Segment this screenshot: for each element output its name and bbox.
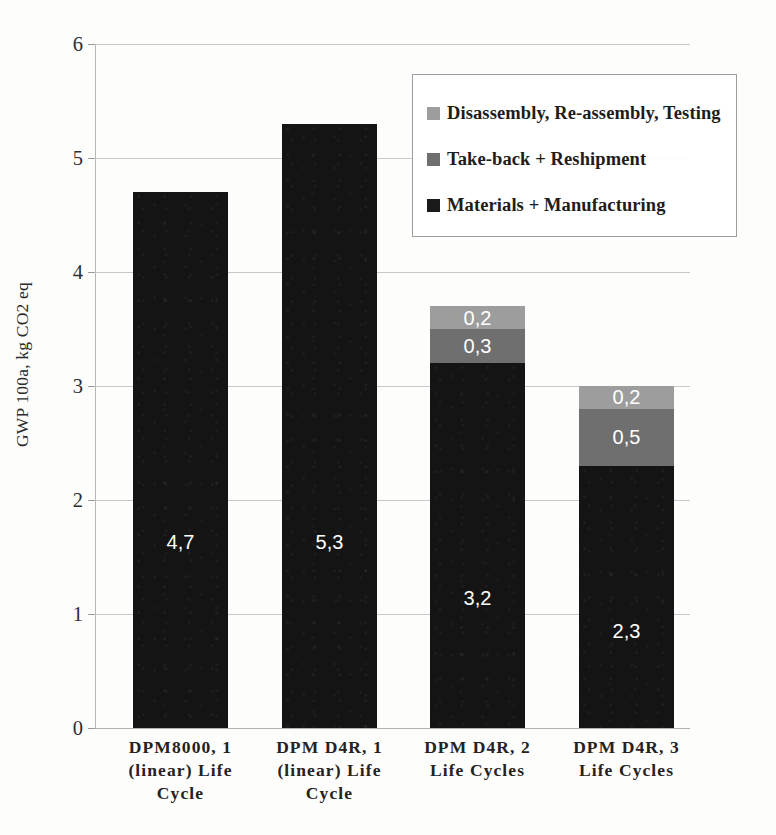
- legend-item[interactable]: Materials + Manufacturing: [427, 195, 666, 216]
- bar-segment: 0,5: [579, 409, 674, 466]
- y-axis-tick-0: [88, 728, 95, 729]
- y-axis-tick-label-5: 5: [37, 147, 83, 170]
- x-axis-category-label: DPM D4R, 2Life Cycles: [403, 736, 553, 782]
- chart-figure: GWP 100a, kg CO2 eq 0123456 4,75,33,20,3…: [0, 0, 776, 835]
- x-axis-category-line: Cycle: [106, 782, 256, 805]
- y-axis-title: GWP 100a, kg CO2 eq: [6, 0, 38, 728]
- x-axis-category-line: Life Cycles: [552, 759, 702, 782]
- y-axis-tick-1: [88, 614, 95, 615]
- y-axis-tick-label-0: 0: [37, 717, 83, 740]
- x-axis-category-line: Life Cycles: [403, 759, 553, 782]
- x-axis-category-line: DPM D4R, 2: [403, 736, 553, 759]
- bar-segment: 0,3: [430, 329, 525, 363]
- legend-item[interactable]: Take-back + Reshipment: [427, 149, 646, 170]
- bar-segment: 0,2: [430, 306, 525, 329]
- bar-segment: 5,3: [282, 124, 377, 728]
- x-axis-category-line: DPM D4R, 1: [255, 736, 405, 759]
- chart-legend: Disassembly, Re-assembly, TestingTake-ba…: [412, 74, 737, 237]
- y-axis-tick-label-6: 6: [37, 33, 83, 56]
- legend-item-label: Take-back + Reshipment: [447, 149, 646, 170]
- bar-value-label: 5,3: [282, 532, 377, 552]
- x-axis-category-line: (linear) Life: [106, 759, 256, 782]
- x-axis-category-label: DPM D4R, 1(linear) LifeCycle: [255, 736, 405, 804]
- legend-item-label: Materials + Manufacturing: [447, 195, 666, 216]
- gridline-6: [95, 44, 690, 45]
- y-axis-tick-label-2: 2: [37, 489, 83, 512]
- y-axis-tick-label-3: 3: [37, 375, 83, 398]
- legend-swatch-icon: [427, 199, 440, 212]
- x-axis-category-line: DPM8000, 1: [106, 736, 256, 759]
- y-axis-title-text: GWP 100a, kg CO2 eq: [12, 281, 33, 446]
- bar-value-label: 0,2: [464, 308, 492, 328]
- gridline-0: [95, 728, 690, 729]
- x-axis-category-line: Cycle: [255, 782, 405, 805]
- x-axis-category-label: DPM D4R, 3Life Cycles: [552, 736, 702, 782]
- y-axis-tick-label-4: 4: [37, 261, 83, 284]
- y-axis-tick-3: [88, 386, 95, 387]
- bar-value-label: 0,3: [464, 336, 492, 356]
- bar-segment: 3,2: [430, 363, 525, 728]
- x-axis-category-line: DPM D4R, 3: [552, 736, 702, 759]
- bar-segment: 2,3: [579, 466, 674, 728]
- y-axis-tick-label-1: 1: [37, 603, 83, 626]
- bar-value-label: 0,2: [613, 387, 641, 407]
- legend-item-label: Disassembly, Re-assembly, Testing: [447, 103, 721, 124]
- bar-value-label: 0,5: [613, 427, 641, 447]
- bar-value-label: 2,3: [579, 621, 674, 641]
- bar-segment: 4,7: [133, 192, 228, 728]
- x-axis-category-label: DPM8000, 1(linear) LifeCycle: [106, 736, 256, 804]
- y-axis-tick-4: [88, 272, 95, 273]
- y-axis-tick-2: [88, 500, 95, 501]
- legend-item[interactable]: Disassembly, Re-assembly, Testing: [427, 103, 721, 124]
- legend-swatch-icon: [427, 153, 440, 166]
- legend-swatch-icon: [427, 107, 440, 120]
- x-axis-category-labels: DPM8000, 1(linear) LifeCycleDPM D4R, 1(l…: [95, 736, 690, 832]
- bar-value-label: 4,7: [133, 532, 228, 552]
- y-axis-tick-6: [88, 44, 95, 45]
- bar-segment: 0,2: [579, 386, 674, 409]
- y-axis-tick-5: [88, 158, 95, 159]
- x-axis-category-line: (linear) Life: [255, 759, 405, 782]
- bar-value-label: 3,2: [430, 588, 525, 608]
